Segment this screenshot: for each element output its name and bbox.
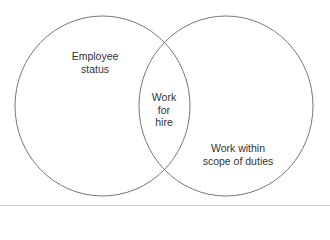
label-line: hire (144, 116, 184, 129)
label-line: scope of duties (192, 155, 284, 168)
label-line: Employee (55, 50, 135, 63)
label-line: Work within (192, 142, 284, 155)
label-line: Work (144, 91, 184, 104)
label-work-for-hire: Work for hire (144, 91, 184, 129)
bottom-divider (0, 205, 330, 206)
label-line: status (55, 63, 135, 76)
label-work-within-scope: Work within scope of duties (192, 142, 284, 167)
label-line: for (144, 104, 184, 117)
label-employee-status: Employee status (55, 50, 135, 75)
